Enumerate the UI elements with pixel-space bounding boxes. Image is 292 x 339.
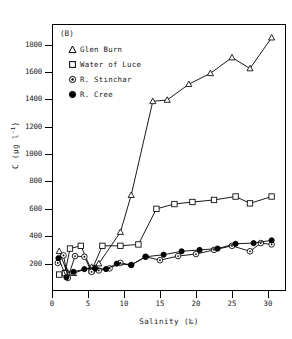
- y-axis-tick: [45, 99, 52, 100]
- y-axis-tick-label: 600: [0, 205, 42, 212]
- y-axis-tick: [45, 264, 52, 265]
- data-point: [61, 253, 67, 259]
- data-point: [161, 252, 166, 257]
- data-point: [190, 199, 195, 204]
- y-axis-tick: [45, 154, 52, 155]
- x-axis-tick: [268, 291, 269, 298]
- y-axis-title-main: C (µg l: [11, 134, 20, 169]
- data-point: [56, 256, 61, 261]
- chart-plot-area: [52, 24, 286, 291]
- series-line: [59, 197, 271, 275]
- data-point: [72, 253, 78, 259]
- data-point: [136, 242, 141, 247]
- y-axis-tick: [45, 72, 52, 73]
- data-point: [67, 246, 72, 251]
- series-line: [59, 38, 271, 274]
- data-point: [207, 70, 213, 76]
- data-point: [172, 201, 177, 206]
- data-point: [93, 266, 98, 271]
- y-axis-tick-label: 1600: [0, 68, 42, 75]
- x-axis-tick: [52, 291, 53, 298]
- y-axis-title-tail: ): [11, 122, 20, 127]
- data-point: [157, 257, 163, 263]
- y-axis-title: C (µg l-1): [10, 90, 21, 200]
- data-point: [269, 238, 274, 243]
- x-axis-tick: [160, 291, 161, 298]
- series-r-stinchar: [55, 240, 274, 281]
- x-axis-tick-label: 10: [109, 300, 139, 307]
- data-point: [114, 261, 119, 266]
- x-axis-tick-label: 0: [37, 300, 67, 307]
- y-axis-tick-label: 1800: [0, 41, 42, 48]
- y-axis-tick-label: 800: [0, 177, 42, 184]
- data-point: [233, 194, 238, 199]
- data-point: [154, 206, 159, 211]
- data-point: [82, 266, 87, 271]
- data-point: [103, 266, 108, 271]
- data-point: [82, 254, 88, 260]
- y-axis-tick-label: 1000: [0, 150, 42, 157]
- y-axis-tick: [45, 181, 52, 182]
- y-axis-tick: [45, 127, 52, 128]
- data-point: [143, 254, 148, 259]
- x-axis-tick-label: 20: [181, 300, 211, 307]
- y-axis-tick-label: 400: [0, 232, 42, 239]
- series-water-of-luce: [57, 194, 275, 277]
- data-point: [179, 249, 184, 254]
- x-axis-tick: [124, 291, 125, 298]
- data-point: [117, 229, 123, 235]
- data-point: [57, 272, 62, 277]
- data-point: [247, 201, 252, 206]
- data-point: [175, 253, 181, 259]
- data-point: [229, 54, 235, 60]
- x-axis-tick-label: 15: [145, 300, 175, 307]
- x-axis-tick-label: 5: [73, 300, 103, 307]
- data-point: [269, 34, 275, 40]
- data-point: [197, 247, 202, 252]
- y-axis-title-exponent: -1: [10, 127, 16, 135]
- y-axis-tick: [45, 45, 52, 46]
- data-point: [215, 246, 220, 251]
- data-point: [64, 275, 69, 280]
- y-axis-tick-label: 1200: [0, 123, 42, 130]
- x-axis-title: Salinity (‰): [52, 317, 286, 326]
- x-axis-tick: [196, 291, 197, 298]
- data-point: [71, 269, 76, 274]
- data-point: [128, 192, 134, 198]
- data-point: [247, 248, 253, 254]
- data-point: [100, 243, 105, 248]
- data-point: [129, 262, 134, 267]
- data-point: [118, 243, 123, 248]
- data-point: [164, 97, 170, 103]
- y-axis-tick: [45, 209, 52, 210]
- data-point: [258, 240, 264, 246]
- data-point: [251, 240, 256, 245]
- x-axis-tick-label: 25: [217, 300, 247, 307]
- y-axis-tick-label: 200: [0, 260, 42, 267]
- y-axis-tick: [45, 236, 52, 237]
- data-point: [56, 248, 62, 254]
- series-glen-burn: [56, 34, 274, 275]
- y-axis-tick-label: 1400: [0, 95, 42, 102]
- x-axis-tick: [88, 291, 89, 298]
- data-point: [269, 194, 274, 199]
- figure-panel-b: (B) Glen Burn Water of Luce R. Stinchar …: [0, 0, 292, 339]
- data-point: [78, 243, 83, 248]
- data-point: [211, 197, 216, 202]
- data-point: [186, 81, 192, 87]
- x-axis-tick: [232, 291, 233, 298]
- x-axis-tick-label: 30: [253, 300, 283, 307]
- data-point: [233, 241, 238, 246]
